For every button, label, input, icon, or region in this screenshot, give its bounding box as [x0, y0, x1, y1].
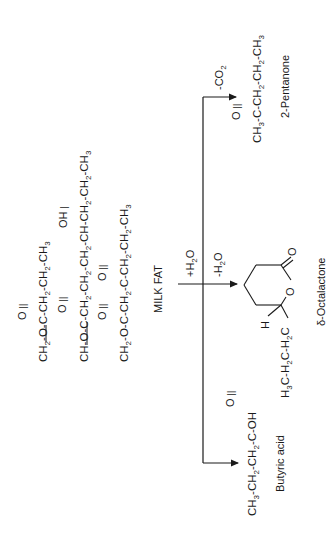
butyric-acid-formula: CH3-CH2-CH2-C-OH — [247, 412, 261, 516]
triglyceride-chain-2: CH-O-C-CH2-CH2-CH2-CH-CH2-CH2-CH3 — [79, 151, 93, 362]
chain2-carbonyl-oxygen: O || — [57, 297, 68, 313]
pentanone-formula: CH3-C-CH2-CH2-CH3 — [252, 35, 266, 143]
milk-fat-label: MILK FAT — [153, 265, 164, 313]
decarboxylation-label: -CO2 — [214, 65, 228, 90]
pentanone-name: 2-Pentanone — [280, 55, 291, 118]
chain1-carbonyl-oxygen: O || — [17, 304, 28, 320]
lactone-ring-oxygen: O — [285, 287, 296, 296]
pentanone-carbonyl-oxygen: O || — [231, 104, 242, 120]
butyric-carbonyl-oxygen: O || — [225, 391, 236, 407]
chain3-carbonyl-oxygen-2: O || — [97, 265, 108, 281]
dehydration-label: -H2O — [213, 252, 227, 277]
lactone-carbonyl-oxygen: O — [287, 247, 298, 256]
lactone-ring-hydrogen: H — [260, 321, 271, 329]
chain3-carbonyl-oxygen-1: O || — [97, 304, 108, 320]
hydration-label: +H2O — [185, 250, 199, 277]
butyric-acid-name: Butyric acid — [275, 435, 286, 492]
lactone-substituent: H3C-H2C-H2C — [280, 327, 294, 398]
triglyceride-chain-1: CH2-O-C-CH2-CH2-CH3 — [38, 241, 52, 362]
lactone-name: δ-Octalactone — [316, 258, 327, 327]
triglyceride-chain-3: CH2-O-C-CH2-C-CH2-CH2-CH3 — [119, 204, 133, 362]
chain2-hydroxyl: OH | — [58, 206, 69, 228]
